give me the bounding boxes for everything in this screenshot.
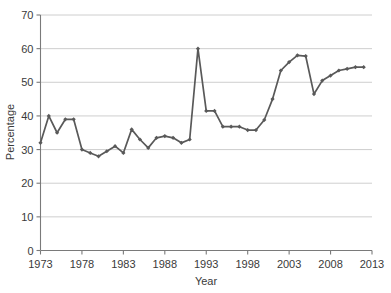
y-tick-label: 20	[21, 177, 33, 189]
x-axis-title: Year	[195, 275, 218, 287]
data-point-markers	[38, 47, 365, 159]
x-tick-label: 2008	[318, 258, 342, 270]
y-tick-label: 0	[27, 245, 33, 257]
data-series-line	[41, 49, 364, 157]
chart-canvas: 010203040506070 197319781983198819931998…	[0, 0, 391, 293]
data-point-marker	[196, 47, 200, 51]
data-point-marker	[304, 54, 308, 58]
y-tick-label: 40	[21, 110, 33, 122]
data-point-marker	[38, 141, 42, 145]
y-tick-label: 60	[21, 43, 33, 55]
data-point-marker	[362, 65, 366, 69]
y-tick-label: 50	[21, 76, 33, 88]
data-point-marker	[353, 65, 357, 69]
y-axis	[37, 15, 41, 251]
x-tick-label: 2003	[277, 258, 301, 270]
y-tick-label: 70	[21, 9, 33, 21]
y-tick-labels: 010203040506070	[21, 9, 33, 257]
data-point-marker	[163, 134, 167, 138]
data-point-marker	[204, 109, 208, 113]
x-tick-label: 1973	[28, 258, 52, 270]
y-tick-label: 30	[21, 144, 33, 156]
x-tick-labels: 197319781983198819931998200320082013	[28, 258, 384, 270]
x-axis	[41, 251, 373, 255]
x-tick-label: 1978	[70, 258, 94, 270]
data-point-marker	[229, 125, 233, 129]
x-tick-label: 1993	[194, 258, 218, 270]
gridlines	[41, 15, 373, 217]
x-tick-label: 2013	[360, 258, 384, 270]
y-tick-label: 10	[21, 211, 33, 223]
data-point-marker	[72, 117, 76, 121]
y-axis-title: Percentage	[4, 104, 16, 160]
line-chart: 010203040506070 197319781983198819931998…	[0, 0, 391, 293]
x-tick-label: 1983	[111, 258, 135, 270]
x-tick-label: 1988	[153, 258, 177, 270]
data-point-marker	[345, 67, 349, 71]
x-tick-label: 1998	[235, 258, 259, 270]
